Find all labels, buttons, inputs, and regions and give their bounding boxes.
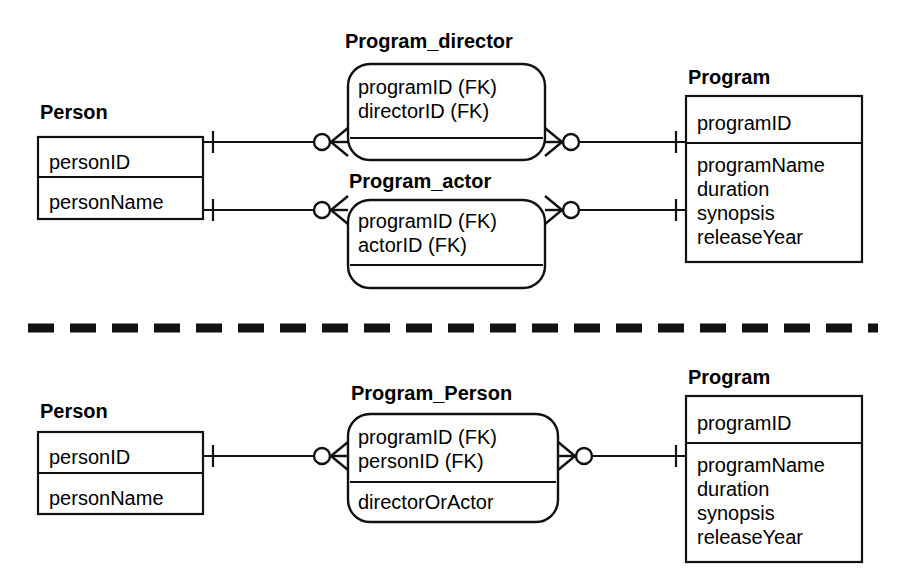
entity-program-bottom[interactable]: Program programID programName duration s… <box>686 366 862 562</box>
attribute-program-actor-programid: programID (FK) <box>358 210 497 232</box>
attribute-program-person-directororactor: directorOrActor <box>358 491 494 513</box>
cardinality-zero-circle-director-left <box>314 134 330 150</box>
relationship-program-director-program[interactable] <box>545 128 686 156</box>
crow-foot-programperson-left <box>330 442 348 470</box>
relationship-person-program-director[interactable] <box>203 128 348 156</box>
entity-title-program-top: Program <box>688 66 770 88</box>
cardinality-zero-circle-director-right <box>563 134 579 150</box>
attribute-program-director-programid: programID (FK) <box>358 76 497 98</box>
entity-program-person[interactable]: Program_Person programID (FK) personID (… <box>348 382 558 522</box>
entity-title-person-bottom: Person <box>40 400 108 422</box>
attribute-program-bottom-synopsis: synopsis <box>697 502 775 524</box>
attribute-program-bottom-programname: programName <box>697 454 825 476</box>
attribute-program-top-programid: programID <box>697 112 791 134</box>
attribute-program-top-programname: programName <box>697 154 825 176</box>
entity-person-top[interactable]: Person personID personName <box>38 101 203 219</box>
attribute-person-top-personid: personID <box>49 151 130 173</box>
attribute-program-person-personid: personID (FK) <box>358 450 484 472</box>
relationship-program-person-program[interactable] <box>558 442 686 470</box>
entity-program-director[interactable]: Program_director programID (FK) director… <box>345 30 545 160</box>
relationship-person-program-person[interactable] <box>203 442 348 470</box>
cardinality-zero-circle-programperson-right <box>576 448 592 464</box>
entity-title-program-person: Program_Person <box>351 382 512 404</box>
crow-foot-programperson-right <box>558 442 576 470</box>
attribute-person-top-personname: personName <box>49 191 164 213</box>
entity-title-program-actor: Program_actor <box>349 170 491 192</box>
cardinality-zero-circle-programperson-left <box>314 448 330 464</box>
crow-foot-director-right <box>545 128 563 156</box>
entity-title-program-bottom: Program <box>688 366 770 388</box>
entity-program-actor[interactable]: Program_actor programID (FK) actorID (FK… <box>348 170 545 288</box>
top-design-group: Person personID personName Program_direc… <box>38 30 862 288</box>
attribute-person-bottom-personname: personName <box>49 487 164 509</box>
relationship-program-actor-program[interactable] <box>545 196 686 224</box>
crow-foot-actor-left <box>330 196 348 224</box>
attribute-program-bottom-programid: programID <box>697 412 791 434</box>
entity-title-program-director: Program_director <box>345 30 513 52</box>
entity-person-bottom[interactable]: Person personID personName <box>38 400 203 514</box>
entity-title-person-top: Person <box>40 101 108 123</box>
attribute-program-top-duration: duration <box>697 178 769 200</box>
attribute-program-bottom-releaseyear: releaseYear <box>697 526 803 548</box>
cardinality-zero-circle-actor-right <box>563 202 579 218</box>
crow-foot-actor-right <box>545 196 563 224</box>
attribute-person-bottom-personid: personID <box>49 446 130 468</box>
entity-program-top[interactable]: Program programID programName duration s… <box>686 66 862 262</box>
attribute-program-bottom-duration: duration <box>697 478 769 500</box>
attribute-program-person-programid: programID (FK) <box>358 426 497 448</box>
bottom-design-group: Person personID personName Program_Perso… <box>38 366 862 562</box>
attribute-program-actor-actorid: actorID (FK) <box>358 234 467 256</box>
attribute-program-top-releaseyear: releaseYear <box>697 226 803 248</box>
er-diagram: Person personID personName Program_direc… <box>0 0 900 576</box>
attribute-program-top-synopsis: synopsis <box>697 202 775 224</box>
relationship-person-program-actor[interactable] <box>203 196 348 224</box>
cardinality-zero-circle-actor-left <box>314 202 330 218</box>
crow-foot-director-left <box>330 128 348 156</box>
attribute-program-director-directorid: directorID (FK) <box>358 100 489 122</box>
